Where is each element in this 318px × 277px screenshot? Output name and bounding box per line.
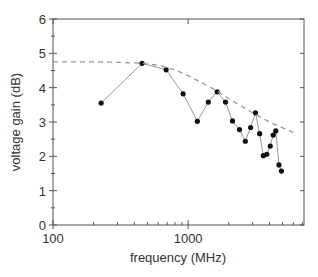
plot-frame [53,19,304,225]
data-point [248,125,253,130]
y-axis-title: voltage gain (dB) [8,73,23,171]
y-tick-label: 6 [39,12,46,27]
measured-line [101,63,281,171]
data-point [195,119,200,124]
x-tick-label: 1000 [174,231,203,246]
data-point [279,168,284,173]
series [53,61,293,174]
y-tick-label: 1 [39,184,46,199]
x-tick-label: 100 [42,231,64,246]
data-point [273,128,278,133]
data-point [268,143,273,148]
data-point [276,162,281,167]
y-tick-label: 5 [39,46,46,61]
data-point [243,139,248,144]
data-point [164,67,169,72]
y-tick-label: 4 [39,81,46,96]
plot-frame-rect [53,19,304,225]
data-point [206,99,211,104]
data-point [237,127,242,132]
data-point [253,110,258,115]
data-point [99,101,104,106]
data-point [223,99,228,104]
y-tick-label: 2 [39,149,46,164]
chart: 01234561001000 frequency (MHz) voltage g… [0,0,318,277]
y-tick-label: 3 [39,115,46,130]
tick-labels: 01234561001000 [39,12,203,246]
data-point [181,91,186,96]
data-point [230,118,235,123]
x-axis-title: frequency (MHz) [130,250,226,265]
data-point [264,152,269,157]
data-point [257,131,262,136]
axis-ticks [49,19,304,229]
